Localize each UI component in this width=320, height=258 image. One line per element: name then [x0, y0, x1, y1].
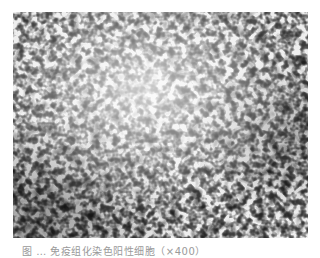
micrograph-figure	[13, 12, 308, 238]
micrograph-image	[13, 12, 308, 238]
figure-caption: 图 … 免疫组化染色阳性细胞（×400）	[22, 246, 312, 258]
